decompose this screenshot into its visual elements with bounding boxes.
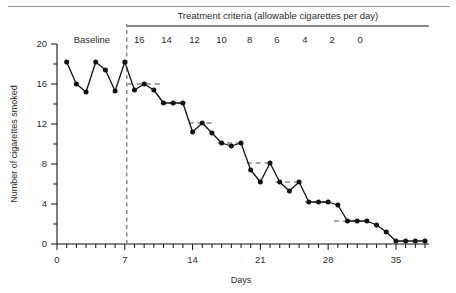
data-line-segment [67,62,77,84]
data-line-segment [260,163,270,182]
data-point [74,82,79,87]
criteria-column-label-14: 14 [161,34,172,45]
data-point [384,230,389,235]
data-point [151,88,156,93]
criteria-column-label-2: 2 [329,34,334,45]
criteria-column-label-10: 10 [216,34,227,45]
data-line-segment [115,62,125,91]
data-point [268,161,273,166]
x-axis-title: Days [231,275,252,285]
x-tick-label-0: 0 [54,254,59,265]
criteria-column-label-12: 12 [189,34,200,45]
data-point [364,219,369,224]
data-point [103,68,108,73]
data-point [287,189,292,194]
data-point [219,141,224,146]
data-point [84,90,89,95]
x-tick-label-7: 7 [122,254,127,265]
criteria-column-label-0: 0 [357,34,362,45]
criteria-layer [127,26,429,221]
data-point [161,101,166,106]
data-point [326,200,331,205]
y-tick-label-0: 0 [42,238,47,249]
data-point [142,82,147,87]
y-tick-label-16: 16 [36,78,47,89]
y-axis-title: Number of cigarettes smoked [9,85,19,203]
data-point [258,180,263,185]
y-tick-label-4: 4 [42,198,47,209]
y-tick-label-20: 20 [36,38,47,49]
data-line-segment [183,103,193,132]
data-point [403,239,408,244]
figure-container: 0714212835048121620DaysNumber of cigaret… [0,0,456,293]
data-point [113,89,118,94]
criteria-column-label-8: 8 [247,34,252,45]
y-tick-label-12: 12 [36,118,47,129]
data-point [229,144,234,149]
cigarette-reduction-chart: 0714212835048121620DaysNumber of cigaret… [0,0,456,293]
data-point [132,88,137,93]
baseline-phase-label: Baseline [74,34,110,45]
data-point [277,180,282,185]
data-line-segment [299,182,309,202]
data-point [209,131,214,136]
data-point [345,219,350,224]
criteria-column-label-4: 4 [302,34,307,45]
data-point [393,239,398,244]
data-point [200,121,205,126]
data-point [190,130,195,135]
data-point [64,60,69,65]
data-point [306,200,311,205]
x-tick-label-21: 21 [255,254,266,265]
data-point [335,203,340,208]
data-point [355,219,360,224]
data-point [374,223,379,228]
data-point [316,200,321,205]
data-point [122,60,127,65]
data-point [93,60,98,65]
x-tick-label-28: 28 [323,254,334,265]
data-line-segment [86,62,96,92]
data-point [413,239,418,244]
data-point [180,101,185,106]
data-point [297,180,302,185]
data-series-layer [64,60,427,244]
data-point [239,141,244,146]
criteria-header-title: Treatment criteria (allowable cigarettes… [177,10,378,21]
data-point [423,239,428,244]
criteria-column-label-6: 6 [274,34,279,45]
criteria-column-label-16: 16 [134,34,145,45]
x-tick-label-35: 35 [391,254,402,265]
x-tick-label-14: 14 [187,254,198,265]
data-line-segment [105,70,115,91]
y-tick-label-8: 8 [42,158,47,169]
data-point [171,101,176,106]
data-line-segment [270,163,280,182]
data-line-segment [241,143,251,170]
data-line-segment [338,205,348,221]
data-point [248,168,253,173]
